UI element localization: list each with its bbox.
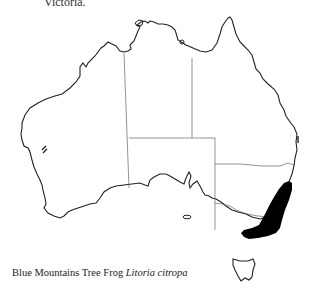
map-caption: Blue Mountains Tree Frog Litoria citropa bbox=[12, 267, 188, 278]
state-borders bbox=[124, 53, 294, 230]
australia-distribution-map bbox=[0, 0, 315, 293]
qld-nsw-border bbox=[215, 163, 294, 166]
common-name: Blue Mountains Tree Frog bbox=[12, 267, 123, 278]
mainland-coastline bbox=[21, 17, 297, 219]
wa-border bbox=[124, 53, 129, 188]
tasmania bbox=[233, 259, 255, 281]
kangaroo-island bbox=[183, 215, 191, 219]
scientific-name: Litoria citropa bbox=[126, 267, 188, 278]
shark-bay bbox=[42, 146, 47, 153]
distribution-area bbox=[241, 181, 292, 239]
nsw-vic-border bbox=[215, 203, 268, 217]
